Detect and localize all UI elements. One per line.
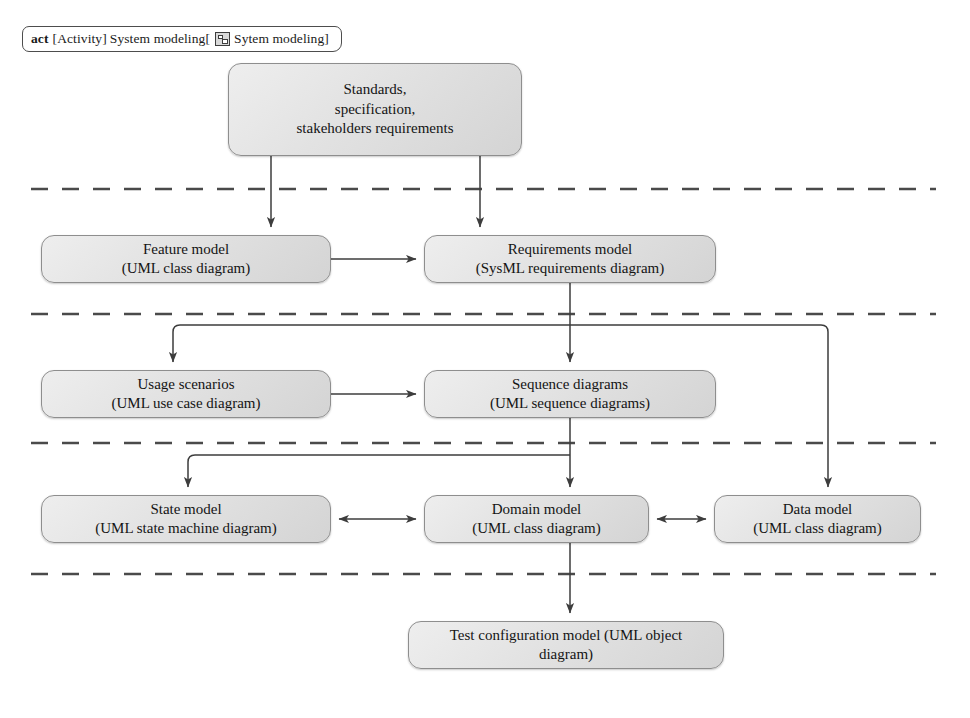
data-model-line-1: Data model <box>753 500 882 520</box>
feature-model-node[interactable]: Feature model (UML class diagram) <box>41 235 331 283</box>
frame-inner-name: Sytem modeling] <box>234 32 329 46</box>
data-model-node[interactable]: Data model (UML class diagram) <box>714 495 921 543</box>
standards-line-3: stakeholders requirements <box>296 119 453 139</box>
requirements-model-line-2: (SysML requirements diagram) <box>476 259 665 279</box>
frame-name: System modeling[ <box>110 32 210 46</box>
requirements-model-line-1: Requirements model <box>476 240 665 260</box>
activity-diagram-icon <box>215 32 230 46</box>
feature-model-node-label: Feature model (UML class diagram) <box>122 240 251 279</box>
frame-keyword: act <box>31 32 49 46</box>
test-configuration-model-node[interactable]: Test configuration model (UML object dia… <box>408 621 724 669</box>
connector-requirements-model-to-usage-scenarios <box>173 325 570 362</box>
connector-sequence-diagrams-to-state-model <box>188 455 570 487</box>
requirements-model-node-label: Requirements model (SysML requirements d… <box>476 240 665 279</box>
activity-diagram-canvas: act [Activity] System modeling[ Sytem mo… <box>0 0 970 718</box>
standards-node[interactable]: Standards, specification, stakeholders r… <box>228 63 522 156</box>
standards-node-label: Standards, specification, stakeholders r… <box>296 80 453 139</box>
frame-type-label: [Activity] <box>53 32 107 46</box>
usage-scenarios-node[interactable]: Usage scenarios (UML use case diagram) <box>41 370 331 418</box>
domain-model-line-2: (UML class diagram) <box>472 519 601 539</box>
feature-model-line-1: Feature model <box>122 240 251 260</box>
requirements-model-node[interactable]: Requirements model (SysML requirements d… <box>424 235 716 283</box>
usage-scenarios-line-2: (UML use case diagram) <box>112 394 261 414</box>
state-model-line-2: (UML state machine diagram) <box>95 519 276 539</box>
sequence-diagrams-node-label: Sequence diagrams (UML sequence diagrams… <box>490 375 650 414</box>
sequence-diagrams-line-1: Sequence diagrams <box>490 375 650 395</box>
usage-scenarios-line-1: Usage scenarios <box>112 375 261 395</box>
feature-model-line-2: (UML class diagram) <box>122 259 251 279</box>
test-configuration-model-line-1: Test configuration model (UML object <box>450 626 683 646</box>
usage-scenarios-node-label: Usage scenarios (UML use case diagram) <box>112 375 261 414</box>
test-configuration-model-line-2: diagram) <box>450 645 683 665</box>
state-model-node[interactable]: State model (UML state machine diagram) <box>41 495 331 543</box>
domain-model-line-1: Domain model <box>472 500 601 520</box>
domain-model-node[interactable]: Domain model (UML class diagram) <box>424 495 649 543</box>
sequence-diagrams-line-2: (UML sequence diagrams) <box>490 394 650 414</box>
test-configuration-model-node-label: Test configuration model (UML object dia… <box>450 626 683 665</box>
standards-line-2: specification, <box>296 100 453 120</box>
state-model-line-1: State model <box>95 500 276 520</box>
data-model-node-label: Data model (UML class diagram) <box>753 500 882 539</box>
state-model-node-label: State model (UML state machine diagram) <box>95 500 276 539</box>
data-model-line-2: (UML class diagram) <box>753 519 882 539</box>
standards-line-1: Standards, <box>296 80 453 100</box>
domain-model-node-label: Domain model (UML class diagram) <box>472 500 601 539</box>
activity-frame-header: act [Activity] System modeling[ Sytem mo… <box>22 26 342 52</box>
sequence-diagrams-node[interactable]: Sequence diagrams (UML sequence diagrams… <box>424 370 716 418</box>
